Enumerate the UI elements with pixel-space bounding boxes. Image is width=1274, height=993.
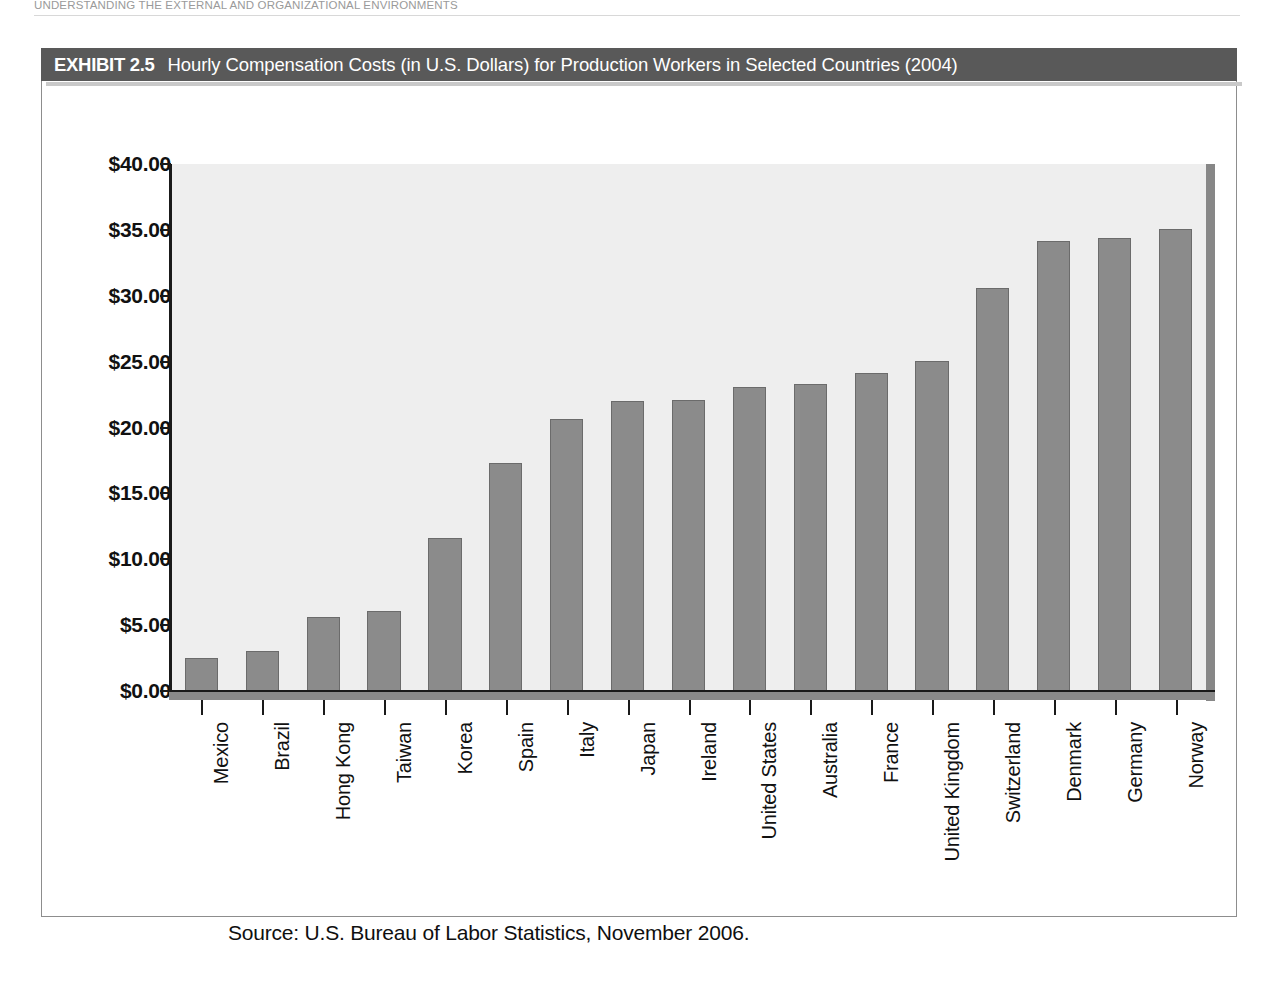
y-axis-tick-label: $35.00 [51,218,171,242]
bar [733,387,766,691]
x-axis-category-label: Switzerland [1002,722,1025,823]
running-head: UNDERSTANDING THE EXTERNAL AND ORGANIZAT… [34,0,458,11]
y-axis-tick-label: $0.00 [51,679,171,703]
x-axis-tick-mark [201,700,203,715]
y-axis-labels: $0.00$5.00$10.00$15.00$20.00$25.00$30.00… [42,82,171,916]
x-axis-category-label: Norway [1185,722,1208,789]
y-axis-tick-label: $25.00 [51,350,171,374]
x-axis-category-label: Italy [576,722,599,758]
x-axis-category-label: Mexico [210,722,233,784]
y-axis-line [169,164,172,692]
x-axis-category-label: Hong Kong [332,722,355,820]
bar [367,611,400,691]
x-axis-tick-mark [567,700,569,715]
exhibit-title: Hourly Compensation Costs (in U.S. Dolla… [168,54,958,76]
x-axis-category-label: Taiwan [393,722,416,783]
x-axis-tick-mark [932,700,934,715]
y-axis-tick-label: $20.00 [51,416,171,440]
x-axis-tick-mark [323,700,325,715]
x-axis-tick-mark [1115,700,1117,715]
bar [307,617,340,691]
y-axis-tick-label: $10.00 [51,547,171,571]
x-axis-category-label: Germany [1124,722,1147,803]
bar [611,401,644,691]
bar [489,463,522,691]
x-axis-category-label: Japan [637,722,660,776]
x-axis-tick-mark [749,700,751,715]
x-axis-category-label: United Kingdom [941,722,964,862]
bar [976,288,1009,691]
y-axis-tick-label: $40.00 [51,152,171,176]
x-axis-tick-mark [810,700,812,715]
x-axis-tick-mark [871,700,873,715]
bar [672,400,705,691]
plot-area [171,164,1206,691]
x-axis-category-label: Brazil [271,722,294,771]
x-axis-tick-mark [1054,700,1056,715]
exhibit-titlebar: EXHIBIT 2.5 Hourly Compensation Costs (i… [41,48,1237,81]
bar [855,373,888,691]
bar [428,538,461,691]
plot-right-edge [1206,164,1215,701]
x-axis-tick-mark [262,700,264,715]
x-axis-category-label: United States [758,722,781,839]
x-axis-tick-mark [1176,700,1178,715]
x-axis-category-label: Korea [454,722,477,774]
bar [1098,238,1131,691]
bar-chart: $0.00$5.00$10.00$15.00$20.00$25.00$30.00… [42,82,1236,916]
x-axis-category-label: France [880,722,903,783]
y-axis-tick-label: $15.00 [51,481,171,505]
x-axis-line [169,690,1215,700]
x-axis-category-label: Spain [515,722,538,772]
bar [246,651,279,691]
bar [915,361,948,691]
bar [1159,229,1192,691]
exhibit-page: UNDERSTANDING THE EXTERNAL AND ORGANIZAT… [0,0,1274,993]
x-axis-tick-mark [628,700,630,715]
x-axis-tick-mark [445,700,447,715]
exhibit-number: EXHIBIT 2.5 [54,54,155,76]
bar [794,384,827,691]
bar [185,658,218,691]
y-axis-tick-label: $5.00 [51,613,171,637]
x-axis-category-label: Denmark [1063,722,1086,802]
bar [1037,241,1070,691]
x-axis-category-label: Australia [819,722,842,798]
x-axis-tick-mark [993,700,995,715]
source-note: Source: U.S. Bureau of Labor Statistics,… [228,921,749,945]
exhibit-box: EXHIBIT 2.5 Hourly Compensation Costs (i… [41,48,1237,917]
y-axis-tick-label: $30.00 [51,284,171,308]
header-divider [34,15,1240,16]
x-axis-tick-mark [506,700,508,715]
x-axis-tick-mark [689,700,691,715]
bar [550,419,583,691]
x-axis-tick-mark [384,700,386,715]
x-axis-category-label: Ireland [698,722,721,782]
